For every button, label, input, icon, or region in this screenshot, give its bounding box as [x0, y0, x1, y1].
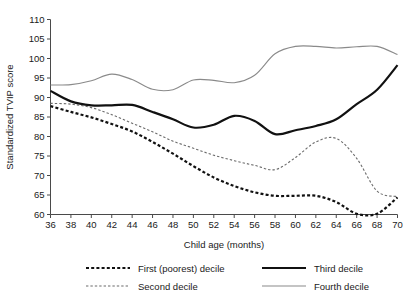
chart-container: 6065707580859095100105110363840424446485…: [0, 0, 412, 299]
legend-label-3: Third decile: [314, 263, 363, 274]
y-tick-label: 110: [29, 14, 44, 25]
x-tick-label: 38: [66, 219, 77, 230]
x-tick-label: 52: [209, 219, 220, 230]
series-line-3: [51, 65, 398, 134]
x-tick-label: 42: [106, 219, 117, 230]
y-tick-label: 95: [34, 72, 45, 83]
series-line-4: [51, 46, 398, 91]
y-tick-label: 75: [34, 150, 45, 161]
y-tick-label: 65: [34, 189, 45, 200]
x-tick-label: 44: [127, 219, 138, 230]
chart-legend: First (poorest) decileSecond decileThird…: [86, 263, 369, 292]
data-series: [51, 46, 398, 216]
axes: [47, 20, 398, 219]
series-line-2: [51, 103, 398, 196]
x-tick-label: 62: [311, 219, 322, 230]
x-tick-label: 54: [229, 219, 240, 230]
x-tick-label: 70: [392, 219, 403, 230]
x-tick-label: 56: [249, 219, 260, 230]
y-tick-label: 80: [34, 131, 45, 142]
x-tick-label: 60: [290, 219, 301, 230]
y-tick-label: 100: [29, 53, 45, 64]
x-tick-label: 64: [331, 219, 342, 230]
y-tick-label: 85: [34, 111, 45, 122]
y-axis-title: Standardized TVIP score: [4, 64, 15, 169]
legend-label-4: Fourth decile: [314, 281, 369, 292]
y-tick-label: 90: [34, 92, 45, 103]
legend-label-2: Second decile: [138, 281, 198, 292]
x-tick-label: 46: [147, 219, 158, 230]
legend-label-1: First (poorest) decile: [138, 263, 225, 274]
x-axis-title: Child age (months): [184, 239, 264, 250]
x-tick-label: 66: [351, 219, 362, 230]
y-tick-label: 70: [34, 170, 45, 181]
y-tick-label: 105: [29, 33, 45, 44]
line-chart: 6065707580859095100105110363840424446485…: [0, 0, 412, 299]
y-tick-label: 60: [34, 209, 45, 220]
x-tick-label: 40: [86, 219, 97, 230]
x-tick-label: 68: [372, 219, 383, 230]
x-tick-label: 48: [168, 219, 179, 230]
series-line-1: [51, 106, 398, 215]
x-tick-label: 50: [188, 219, 199, 230]
x-tick-label: 36: [45, 219, 56, 230]
x-tick-label: 58: [270, 219, 281, 230]
